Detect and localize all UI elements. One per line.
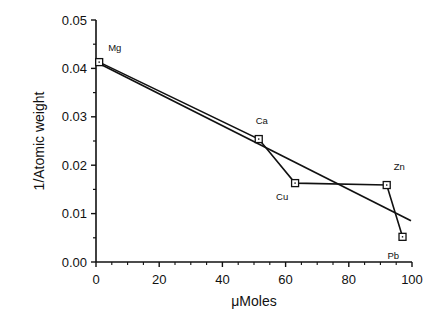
x-tick-label: 40 xyxy=(215,272,229,287)
marker-dot xyxy=(294,182,295,183)
x-tick-label: 60 xyxy=(278,272,292,287)
x-tick-label: 80 xyxy=(342,272,356,287)
marker-dot xyxy=(98,61,99,62)
point-label: Pb xyxy=(388,250,400,261)
y-tick-label: 0.04 xyxy=(62,61,87,76)
x-tick-label: 100 xyxy=(401,272,423,287)
data-point-zn: Zn xyxy=(383,161,405,189)
chart: 0.000.010.020.030.040.05020406080100 MgC… xyxy=(0,0,442,326)
regression-line xyxy=(96,62,411,221)
x-tick-label: 20 xyxy=(152,272,166,287)
y-tick-label: 0.05 xyxy=(62,13,87,28)
point-label: Ca xyxy=(256,115,269,126)
plot-area: MgCaCuZnPb xyxy=(96,42,411,261)
y-axis-title: 1/Atomic weight xyxy=(31,91,47,190)
y-tick-label: 0.01 xyxy=(62,206,87,221)
data-point-cu: Cu xyxy=(276,180,299,203)
data-point-ca: Ca xyxy=(255,115,268,142)
y-tick-label: 0.03 xyxy=(62,109,87,124)
y-tick-label: 0.02 xyxy=(62,158,87,173)
data-point-mg: Mg xyxy=(96,42,122,66)
metals-line xyxy=(99,62,402,237)
data-point-pb: Pb xyxy=(388,233,407,261)
point-label: Mg xyxy=(108,42,121,53)
x-tick-label: 0 xyxy=(92,272,99,287)
marker-dot xyxy=(258,138,259,139)
y-tick-label: 0.00 xyxy=(62,255,87,270)
point-label: Zn xyxy=(394,161,405,172)
x-axis-title: μMoles xyxy=(231,293,276,309)
axes: 0.000.010.020.030.040.05020406080100 xyxy=(62,13,423,288)
marker-dot xyxy=(402,236,403,237)
point-label: Cu xyxy=(276,191,288,202)
marker-dot xyxy=(386,184,387,185)
